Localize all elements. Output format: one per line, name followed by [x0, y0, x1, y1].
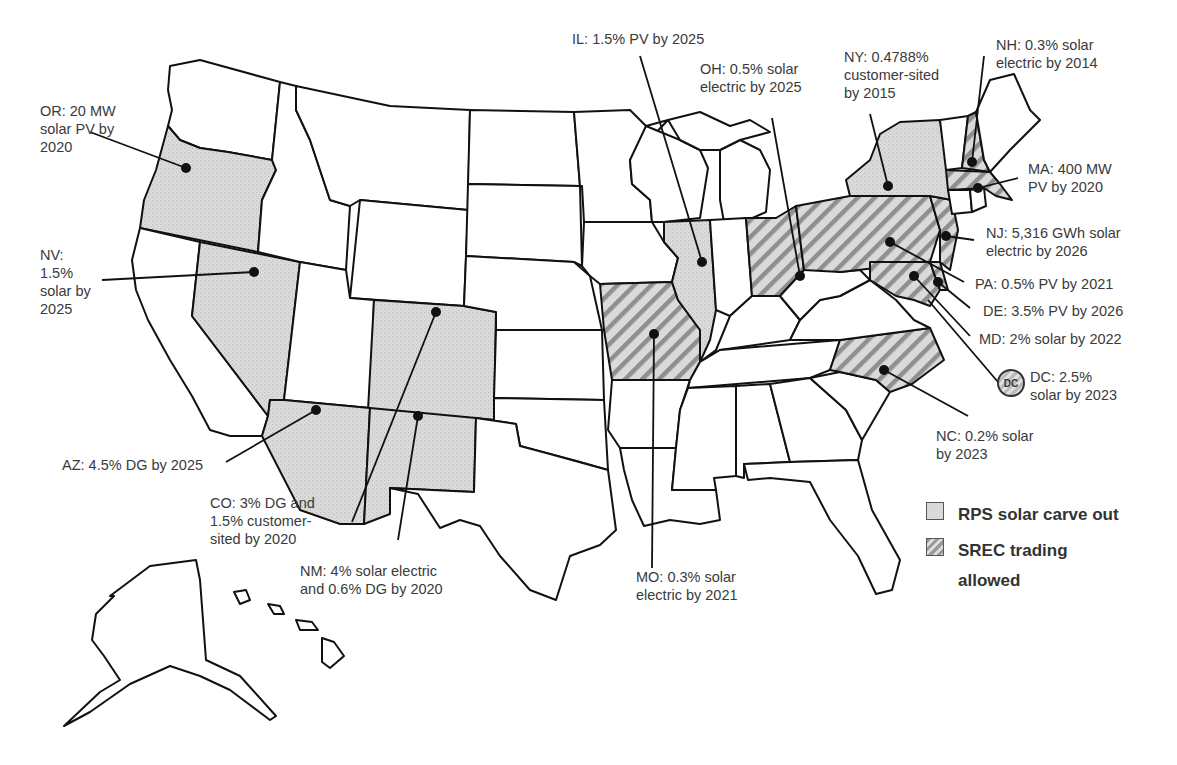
label-nm: NM: 4% solar electric and 0.6% DG by 202… — [300, 562, 443, 598]
state-sd[interactable] — [466, 184, 582, 266]
state-ak[interactable] — [64, 560, 276, 726]
legend-item-rps: RPS solar carve out — [926, 500, 1128, 530]
state-nd[interactable] — [468, 110, 580, 186]
legend-item-srec: SREC trading allowed — [926, 536, 1128, 596]
state-mi[interactable] — [720, 140, 770, 222]
state-pa[interactable] — [796, 196, 940, 272]
legend: RPS solar carve out SREC trading allowed — [926, 500, 1128, 602]
state-fl[interactable] — [744, 460, 900, 594]
label-nv: NV: 1.5% solar by 2025 — [40, 246, 91, 318]
state-hi-1[interactable] — [234, 590, 250, 604]
state-hi-2[interactable] — [268, 604, 284, 614]
label-az: AZ: 4.5% DG by 2025 — [62, 456, 203, 474]
label-or: OR: 20 MW solar PV by 2020 — [40, 102, 116, 156]
srec-swatch-icon — [926, 538, 944, 556]
state-wy[interactable] — [350, 200, 468, 306]
label-pa: PA: 0.5% PV by 2021 — [975, 275, 1113, 293]
label-ma: MA: 400 MW PV by 2020 — [1028, 160, 1112, 196]
label-il: IL: 1.5% PV by 2025 — [572, 30, 704, 48]
state-co[interactable] — [368, 300, 496, 420]
state-ct[interactable] — [948, 190, 972, 214]
dc-badge: DC — [997, 369, 1025, 397]
label-nh: NH: 0.3% solar electric by 2014 — [996, 36, 1098, 72]
state-hi-3[interactable] — [296, 620, 318, 630]
label-de: DE: 3.5% PV by 2026 — [983, 302, 1123, 320]
label-nc: NC: 0.2% solar by 2023 — [936, 427, 1034, 463]
label-dc: DC: 2.5% solar by 2023 — [1030, 368, 1117, 404]
label-md: MD: 2% solar by 2022 — [979, 330, 1122, 348]
state-ny[interactable] — [846, 120, 952, 200]
label-mo: MO: 0.3% solar electric by 2021 — [636, 568, 738, 604]
label-co: CO: 3% DG and 1.5% customer- sited by 20… — [210, 494, 315, 548]
label-ny: NY: 0.4788% customer-sited by 2015 — [844, 48, 939, 102]
rps-swatch-icon — [926, 502, 944, 520]
label-oh: OH: 0.5% solar electric by 2025 — [700, 60, 802, 96]
state-hi-big[interactable] — [322, 638, 344, 668]
state-ks[interactable] — [494, 330, 604, 400]
state-me[interactable] — [976, 74, 1040, 172]
label-nj: NJ: 5,316 GWh solar electric by 2026 — [986, 224, 1121, 260]
